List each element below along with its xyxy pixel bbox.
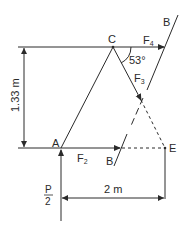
label-F4: F4: [143, 34, 154, 47]
label-P-over-2: P 2: [44, 184, 53, 207]
label-width: 2 m: [104, 183, 122, 195]
height-dimension: [21, 48, 27, 147]
label-height: 1.33 m: [9, 78, 21, 112]
label-B-top: B: [163, 16, 170, 28]
arrow-up-icon: [21, 48, 27, 54]
label-angle: 53°: [129, 54, 146, 66]
svg-text:2: 2: [45, 196, 51, 207]
label-F2: F2: [77, 152, 88, 165]
label-F3: F3: [134, 72, 145, 85]
label-B-bottom: B: [106, 155, 113, 167]
svg-text:P: P: [45, 184, 52, 195]
arrow-down-icon: [21, 141, 27, 147]
label-C: C: [108, 33, 116, 45]
label-E: E: [169, 142, 176, 154]
member-CA: [61, 47, 113, 148]
dashed-member-to-E: [141, 100, 165, 148]
arrow-right-icon: [158, 195, 164, 201]
joint-C: [112, 46, 115, 49]
truss-diagram: C A E B B F4 F3 F2 53° 1.33 m 2 m P 2: [0, 0, 187, 229]
arrow-left-icon: [62, 195, 68, 201]
width-dimension: [62, 195, 164, 201]
label-A: A: [52, 137, 60, 149]
